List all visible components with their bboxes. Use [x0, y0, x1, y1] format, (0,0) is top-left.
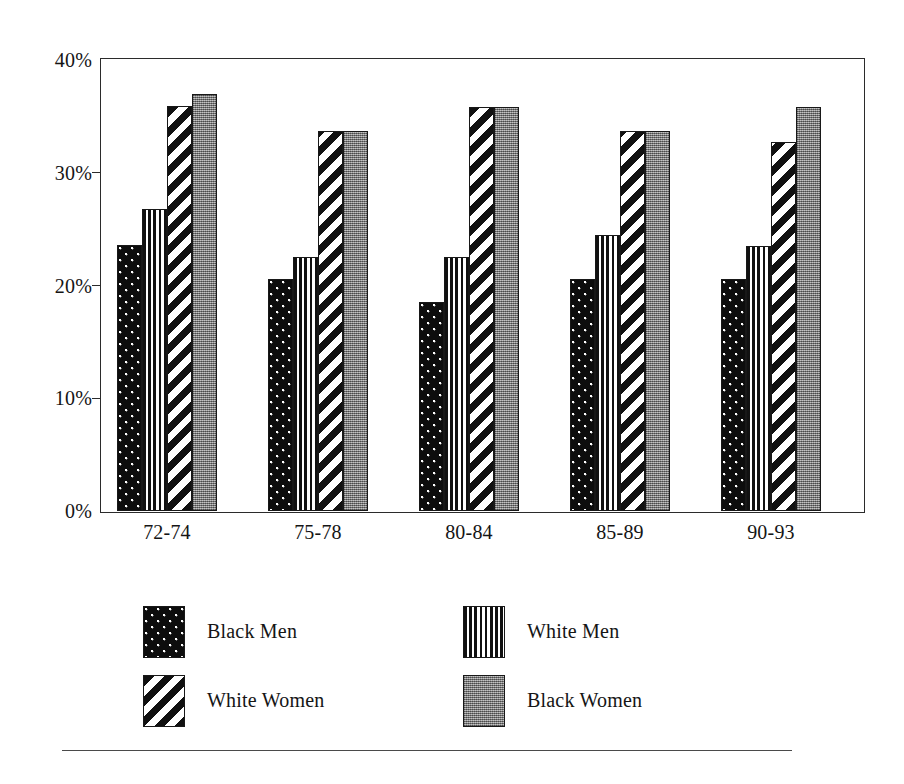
plot-area: 0%10%20%30%40%	[0, 0, 904, 540]
x-axis-labels: 72-7475-7880-8485-8990-93	[100, 521, 865, 561]
y-tick-label: 10%	[55, 387, 92, 410]
bar	[771, 142, 796, 511]
bar-chart-figure: 0%10%20%30%40% 72-7475-7880-8485-8990-93…	[0, 0, 904, 784]
legend-item[interactable]: White Men	[463, 604, 783, 659]
bar	[142, 209, 167, 512]
bar	[620, 131, 645, 512]
bar	[268, 279, 293, 512]
legend-item[interactable]: Black Women	[463, 673, 783, 728]
bar-group	[570, 58, 670, 511]
legend-item[interactable]: White Women	[143, 673, 463, 728]
bar	[444, 257, 469, 511]
bar	[595, 235, 620, 512]
y-axis-labels: 0%10%20%30%40%	[30, 0, 92, 540]
legend-label: White Men	[527, 620, 619, 643]
bar	[318, 131, 343, 512]
bar	[721, 279, 746, 512]
bar	[419, 302, 444, 511]
legend-label: White Women	[207, 689, 324, 712]
bar	[192, 94, 217, 512]
y-tick-label: 0%	[65, 500, 92, 523]
bar-group	[721, 58, 821, 511]
legend-item[interactable]: Black Men	[143, 604, 463, 659]
y-tick-label: 30%	[55, 161, 92, 184]
bar	[293, 257, 318, 511]
bars-container	[100, 58, 865, 513]
chart-legend: Black MenWhite MenWhite WomenBlack Women	[143, 604, 783, 728]
x-tick-label: 72-74	[143, 521, 191, 544]
legend-label: Black Men	[207, 620, 297, 643]
x-tick-label: 80-84	[445, 521, 493, 544]
bar	[343, 131, 368, 512]
bar	[796, 107, 821, 511]
x-tick-label: 85-89	[596, 521, 644, 544]
legend-swatch	[143, 675, 185, 727]
y-tick-label: 20%	[55, 274, 92, 297]
legend-swatch	[463, 675, 505, 727]
legend-swatch	[143, 606, 185, 658]
legend-swatch	[463, 606, 505, 658]
bar	[117, 245, 142, 512]
bar-group	[268, 58, 368, 511]
bar	[469, 107, 494, 511]
bar	[746, 246, 771, 511]
bar	[645, 131, 670, 512]
legend-label: Black Women	[527, 689, 642, 712]
bar	[494, 107, 519, 511]
x-tick-label: 75-78	[294, 521, 342, 544]
footer-rule	[62, 750, 792, 751]
x-tick-label: 90-93	[747, 521, 795, 544]
bar	[167, 106, 192, 511]
bar-group	[117, 58, 217, 511]
y-tick-label: 40%	[55, 48, 92, 71]
bar	[570, 279, 595, 512]
bar-group	[419, 58, 519, 511]
